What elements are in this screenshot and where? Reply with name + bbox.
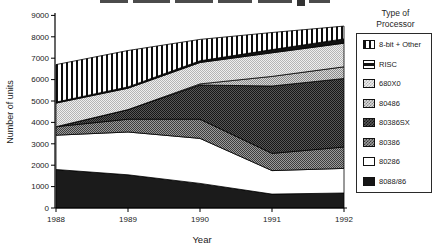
y-tick-label: 0 [45,204,50,213]
y-tick-label: 6000 [31,75,49,84]
y-tick-label: 7000 [31,54,49,63]
x-tick-label: 1992 [335,215,353,224]
y-tick-label: 5000 [31,97,49,106]
checker-medium-swatch-icon [363,99,375,108]
vertical-stripes-swatch-icon [363,40,375,49]
legend-item-label: 80486 [379,99,400,108]
legend-item-680x0: 680X0 [363,79,429,88]
solid-black-swatch-icon [363,177,375,186]
legend-item-risc: RISC [363,60,429,69]
legend-item-80386: 80386 [363,138,429,147]
legend: Type of Processor 8-bit + OtherRISC680X0… [354,8,437,193]
legend-item-8-bit-other: 8-bit + Other [363,40,429,49]
legend-item-80286: 80286 [363,157,429,166]
y-tick-label: 2000 [31,161,49,170]
legend-item-label: 8-bit + Other [379,40,421,49]
checker-dark-swatch-icon [363,118,375,127]
x-tick-label: 1989 [119,215,137,224]
x-tick-label: 1991 [263,215,281,224]
legend-item-label: 80386SX [379,118,410,127]
legend-title-line2: Processor [354,19,437,30]
checker-light-swatch-icon [363,79,375,88]
white-swatch-icon [363,157,375,166]
y-tick-label: 1000 [31,182,49,191]
legend-item-8088-86: 8088/86 [363,177,429,186]
legend-item-80486: 80486 [363,99,429,108]
y-tick-label: 4000 [31,118,49,127]
legend-item-label: 8088/86 [379,177,406,186]
processor-shipments-chart: 0100020003000400050006000700080009000198… [0,0,439,252]
x-tick-label: 1988 [47,215,65,224]
legend-item-label: 80386 [379,138,400,147]
legend-item-label: 80286 [379,157,400,166]
y-tick-label: 9000 [31,11,49,20]
legend-item-label: 680X0 [379,79,401,88]
legend-title-line1: Type of [354,8,437,19]
checker-medium-dark-swatch-icon [363,138,375,147]
chart-bands [56,26,344,208]
y-axis-title: Number of units [5,80,15,144]
legend-title: Type of Processor [354,8,437,29]
y-tick-label: 3000 [31,140,49,149]
legend-item-80386sx: 80386SX [363,118,429,127]
y-tick-label: 8000 [31,33,49,42]
x-axis-title: Year [192,234,211,245]
x-tick-label: 1990 [191,215,209,224]
legend-box: 8-bit + OtherRISC680X08048680386SX803868… [356,33,432,193]
legend-item-label: RISC [379,60,397,69]
horizontal-bar-swatch-icon [363,60,375,69]
